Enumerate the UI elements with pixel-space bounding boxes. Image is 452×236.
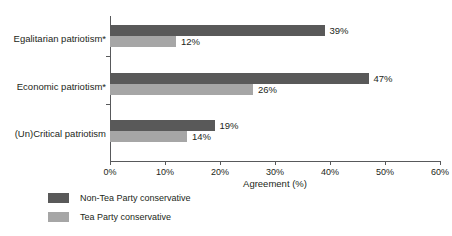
bar-uncritical-tea-party <box>110 131 187 142</box>
bar-value-egalitarian-tea-party: 12% <box>181 36 200 47</box>
legend-swatch-non-tea-party <box>48 193 69 203</box>
plot-area: 39% 12% 47% 26% 19% 14% <box>110 16 440 161</box>
bar-egalitarian-non-tea-party <box>110 25 325 36</box>
x-axis-tick <box>440 161 441 165</box>
x-axis-tick <box>110 161 111 165</box>
x-axis-tick <box>220 161 221 165</box>
category-label-uncritical-patriotism: (Un)Critical patriotism <box>0 128 106 139</box>
bar-chart: Egalitarian patriotism* Economic patriot… <box>0 0 452 236</box>
bar-egalitarian-tea-party <box>110 36 176 47</box>
category-label-egalitarian-patriotism: Egalitarian patriotism* <box>0 33 106 44</box>
x-axis-tick-label-60: 60% <box>431 167 449 177</box>
x-axis-tick <box>385 161 386 165</box>
bar-value-economic-tea-party: 26% <box>258 84 277 95</box>
legend-label-non-tea-party: Non-Tea Party conservative <box>80 193 191 203</box>
legend-swatch-tea-party <box>48 212 69 222</box>
x-axis-tick <box>275 161 276 165</box>
legend-label-tea-party: Tea Party conservative <box>80 212 171 222</box>
bar-value-uncritical-tea-party: 14% <box>192 131 211 142</box>
legend-item-tea-party: Tea Party conservative <box>48 211 171 223</box>
x-axis-tick-label-20: 20% <box>211 167 229 177</box>
bar-economic-non-tea-party <box>110 73 369 84</box>
x-axis-tick-label-10: 10% <box>156 167 174 177</box>
bar-value-uncritical-non-tea-party: 19% <box>220 120 239 131</box>
y-axis-tick <box>106 56 110 57</box>
legend-item-non-tea-party: Non-Tea Party conservative <box>48 192 191 204</box>
x-axis-tick <box>165 161 166 165</box>
y-axis-tick <box>106 104 110 105</box>
x-axis-tick <box>330 161 331 165</box>
bar-value-economic-non-tea-party: 47% <box>374 73 393 84</box>
bar-economic-tea-party <box>110 84 253 95</box>
bar-uncritical-non-tea-party <box>110 120 215 131</box>
bar-value-egalitarian-non-tea-party: 39% <box>330 25 349 36</box>
x-axis-tick-label-40: 40% <box>321 167 339 177</box>
x-axis-title: Agreement (%) <box>110 178 440 189</box>
category-label-economic-patriotism: Economic patriotism* <box>0 81 106 92</box>
x-axis-tick-label-50: 50% <box>376 167 394 177</box>
x-axis-tick-label-0: 0% <box>103 167 116 177</box>
x-axis-tick-label-30: 30% <box>266 167 284 177</box>
